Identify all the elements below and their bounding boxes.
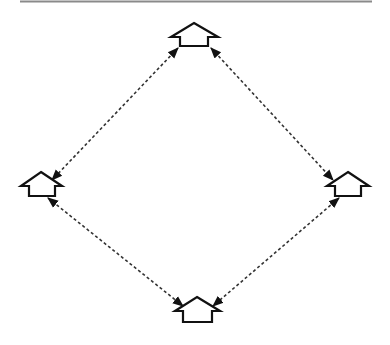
nodes: [21, 23, 369, 322]
edges: [48, 48, 339, 306]
edge-top-left: [52, 48, 178, 180]
edge-left-bottom: [48, 198, 183, 306]
house-icon: [175, 297, 220, 322]
house-icon: [327, 172, 369, 196]
edge-right-bottom: [213, 198, 339, 306]
house-network-diagram: [0, 0, 390, 345]
house-icon: [171, 23, 218, 46]
edge-top-right: [211, 48, 333, 180]
